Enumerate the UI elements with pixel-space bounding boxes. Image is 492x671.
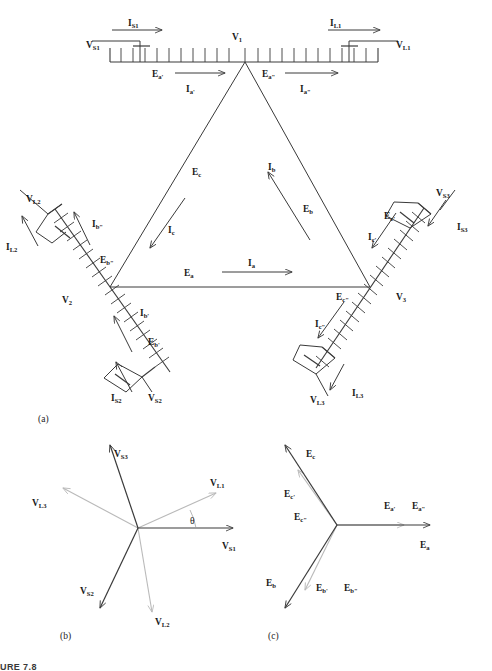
arrow-vs2-lead [142, 377, 152, 392]
figure-caption: URE 7.8 [0, 662, 37, 671]
winding-3-taps [293, 202, 431, 374]
label-vl2-b: VL2 [155, 617, 170, 628]
label-ea-c: Ea [420, 540, 430, 551]
label-eb: Eb [303, 204, 313, 215]
label-ea-dprime: Ea" [262, 69, 275, 80]
label-vl2: VL2 [26, 194, 41, 205]
phasor-eb-prime-c [305, 525, 337, 590]
panel-c: Ea Ea' Ea" Eb Eb' Eb" Ec Ec' Ec" (c) [266, 445, 430, 642]
label-vl1: VL1 [396, 40, 410, 51]
label-eb-prime: Eb' [148, 337, 160, 348]
label-ia: Ia [248, 258, 256, 269]
phasor-vs2 [100, 528, 138, 608]
label-ea-prime-c: Ea' [384, 501, 396, 512]
label-vs3-b: VS3 [114, 449, 128, 460]
label-is3: IS3 [457, 222, 468, 233]
label-vs2-b: VS2 [80, 586, 94, 597]
label-v2: V2 [62, 295, 73, 306]
label-ea-dprime-c: Ea" [412, 501, 425, 512]
label-eb-dprime: Eb" [100, 255, 114, 266]
label-is2: IS2 [111, 393, 122, 404]
label-eb-prime-c: Eb' [316, 583, 328, 594]
label-ec-dprime-c: Ec" [294, 512, 307, 523]
label-il2: IL2 [6, 242, 18, 253]
winding-1-coil [110, 48, 378, 62]
label-eb-dprime-c: Eb" [344, 583, 358, 594]
label-ea-prime: Ea' [152, 69, 164, 80]
label-ec-prime-c: Ec' [284, 489, 295, 500]
label-il1: IL1 [330, 18, 341, 29]
panel-label-b: (b) [60, 631, 71, 642]
panel-a: V1 V2 V3 Ea Ia Eb Ib Ec Ic IS1 VS1 [6, 18, 468, 425]
label-ia-dprime: Ia" [300, 84, 311, 95]
panel-b: VS1 VS2 VS3 VL1 VL2 VL3 θ (b) [32, 445, 236, 642]
label-ic: Ic [168, 225, 175, 236]
label-ia-prime: Ia' [186, 84, 195, 95]
arrow-vl3-lead [316, 374, 328, 396]
label-vl3-b: VL3 [32, 498, 47, 509]
label-vs1-b: VS1 [222, 541, 236, 552]
delta-triangle [110, 62, 370, 287]
arrow-ib-prime [114, 316, 132, 352]
label-ib-prime: Ib' [140, 308, 149, 319]
label-v1: V1 [232, 32, 242, 43]
label-ib-dprime: Ib" [92, 219, 103, 230]
label-is1: IS1 [128, 18, 139, 29]
label-il3: IL3 [352, 388, 364, 399]
label-vl1-b: VL1 [210, 478, 224, 489]
phasor-vl1 [138, 493, 216, 528]
winding-2-taps [36, 204, 155, 392]
label-ea: Ea [184, 268, 194, 279]
label-ib: Ib [268, 162, 276, 173]
label-eb-c: Eb [266, 578, 276, 589]
label-vl3: VL3 [310, 395, 325, 406]
label-theta: θ [190, 516, 195, 526]
arrow-ic [150, 198, 185, 248]
panel-label-c: (c) [268, 631, 279, 642]
winding-3-coil [316, 203, 431, 368]
phasor-vl2 [138, 528, 152, 612]
arrow-il2 [22, 216, 38, 246]
arrow-il3 [330, 364, 344, 390]
label-vs2: VS2 [148, 393, 162, 404]
label-ec-prime: Ec' [384, 211, 395, 222]
label-ec: Ec [192, 167, 201, 178]
label-vs3: VS3 [436, 188, 450, 199]
label-vs1: VS1 [86, 40, 100, 51]
figure-7-8-svg: V1 V2 V3 Ea Ia Eb Ib Ec Ic IS1 VS1 [0, 0, 492, 671]
figure-container: V1 V2 V3 Ea Ia Eb Ib Ec Ic IS1 VS1 [0, 0, 492, 671]
label-ic-dprime: Ic" [315, 319, 325, 330]
panel-label-a: (a) [38, 414, 49, 425]
label-v3: V3 [396, 292, 407, 303]
label-ec-dprime: Ec" [336, 292, 349, 303]
phasor-eb-c [285, 525, 337, 608]
label-ic-prime: Ic' [368, 232, 377, 243]
arrow-is3 [428, 200, 446, 226]
label-ec-c: Ec [306, 449, 315, 460]
